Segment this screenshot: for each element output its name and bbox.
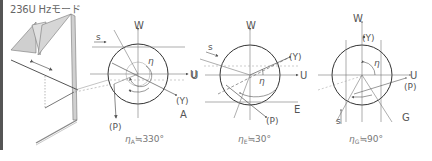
label-y: (Y) (176, 96, 189, 106)
label-u: U (410, 70, 417, 81)
label-p: (P) (266, 116, 278, 126)
label-u-left: U (191, 70, 198, 81)
label-w: W (353, 13, 363, 24)
label-p: (P) (404, 82, 416, 92)
label-s: s (96, 32, 101, 42)
mechanism-sketch (11, 14, 108, 145)
label-y: (Y) (289, 52, 302, 62)
panel-letter-a: A (180, 109, 187, 120)
caption-g: ηG≒90° (349, 134, 383, 145)
label-p: (P) (109, 122, 121, 132)
label-eta: η (374, 58, 380, 68)
diagram-canvas: W U (Y) (P) s η A ηA≒330° W U U (Y) (P) … (0, 0, 432, 161)
vertical-post (71, 14, 77, 120)
panel-letter-e: E (294, 104, 300, 115)
caption-e: ηE≒30° (238, 134, 271, 145)
panel-letter-g: G (402, 112, 410, 123)
panel-g: W U (Y) (P) s η G ηG≒90° (318, 13, 417, 145)
caption-a: ηA≒330° (125, 134, 164, 145)
label-w: W (134, 20, 144, 31)
panel-e: W U U (Y) (P) s η E ηE≒30° (191, 20, 307, 145)
panel-a: W U (Y) (P) s η A ηA≒330° (90, 20, 197, 145)
label-w: W (246, 20, 256, 31)
label-eta: η (148, 56, 154, 66)
label-s: s (208, 42, 213, 52)
triangle-panel-right (38, 14, 71, 55)
label-eta: η (259, 76, 265, 86)
label-s: s (336, 116, 341, 126)
label-y: (Y) (362, 33, 375, 43)
label-u: U (300, 70, 307, 81)
